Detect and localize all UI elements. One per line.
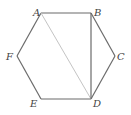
vertex-label-c: C [117,51,125,62]
edge-cd [91,56,115,99]
edge-ef [17,56,41,99]
vertex-label-b: B [93,7,101,18]
hexagon-diagonals [41,13,91,99]
vertex-label-d: D [92,98,101,109]
vertex-labels: A B C D E F [5,7,125,109]
diagonal-ad [41,13,91,99]
hexagon-diagram: A B C D E F [0,0,131,115]
vertex-label-a: A [32,7,40,18]
vertex-label-f: F [5,51,14,62]
vertex-label-e: E [29,98,38,109]
edge-bc [91,13,115,56]
edge-fa [17,13,41,56]
